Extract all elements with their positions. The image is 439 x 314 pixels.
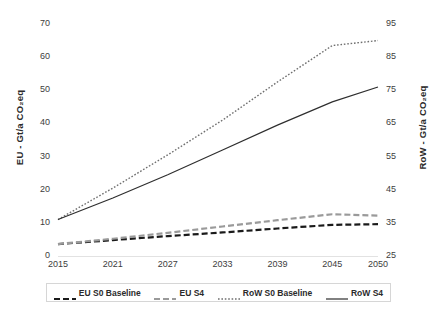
- legend-swatch-icon: [54, 289, 76, 297]
- series-line: [58, 224, 378, 244]
- legend-item[interactable]: RoW S0 Baseline: [217, 288, 313, 298]
- legend-item[interactable]: RoW S4: [325, 288, 384, 298]
- legend-item[interactable]: EU S0 Baseline: [53, 288, 142, 298]
- series-line: [58, 41, 378, 220]
- legend-swatch-icon: [154, 289, 176, 297]
- chart-container: EU - Gt/a CO₂eq RoW - Gt/a CO₂eq 0102030…: [0, 0, 439, 314]
- legend-item[interactable]: EU S4: [153, 288, 205, 298]
- legend-label: RoW S0 Baseline: [243, 288, 312, 298]
- chart-legend: EU S0 BaselineEU S4RoW S0 BaselineRoW S4: [46, 283, 391, 302]
- series-line: [58, 214, 378, 244]
- legend-label: EU S0 Baseline: [79, 288, 141, 298]
- series-line: [58, 87, 378, 220]
- legend-swatch-icon: [326, 289, 348, 297]
- legend-swatch-icon: [218, 289, 240, 297]
- legend-label: EU S4: [179, 288, 204, 298]
- plot-area: [0, 0, 439, 314]
- legend-label: RoW S4: [351, 288, 383, 298]
